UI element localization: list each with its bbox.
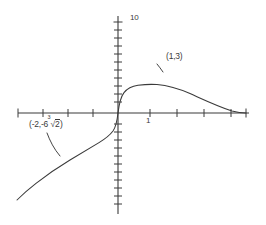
peak-point-label: (1,3)	[166, 52, 182, 61]
left-point-prefix: (-2,-6	[29, 119, 48, 129]
left-point-suffix: )	[60, 119, 63, 129]
axes-group	[18, 16, 249, 214]
radical-argument: 2	[55, 119, 61, 129]
left-point-label: (-2,-63√2)	[29, 119, 63, 129]
graph-figure: 10 1 (1,3) (-2,-63√2)	[0, 0, 266, 225]
curve-right-branch	[118, 84, 246, 113]
radical-index: 3	[48, 115, 51, 121]
cube-root-radical: 3√2	[48, 119, 60, 129]
coordinate-plot	[0, 0, 266, 225]
leader-line-peak	[157, 64, 163, 72]
x-axis-one-label: 1	[146, 117, 150, 125]
leader-line-left-point	[47, 133, 60, 156]
y-axis-max-label: 10	[130, 14, 139, 22]
